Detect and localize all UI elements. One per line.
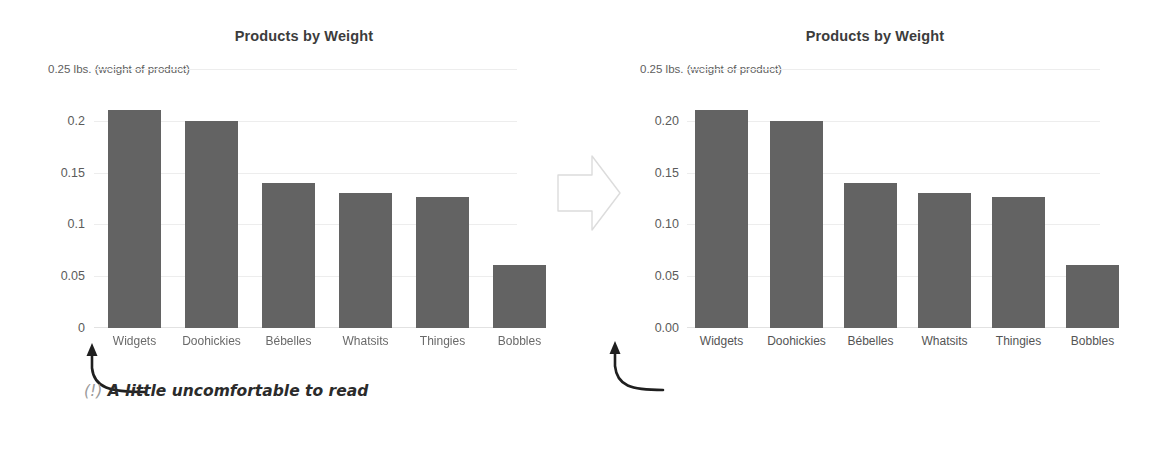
bar: [493, 265, 546, 328]
x-tick-label: Doohickies: [756, 334, 837, 348]
bar: [992, 197, 1045, 328]
bar: [185, 121, 238, 328]
chart-panel-after: Products by Weight 0.25 lbs. (weight of …: [577, 0, 1153, 454]
y-tick-label: 0.2: [30, 114, 85, 128]
plot-area: WidgetsDoohickiesBébellesWhatsitsThingie…: [687, 69, 1100, 328]
y-tick-label: 0.1: [30, 217, 85, 231]
page-title: Products by Weight: [587, 28, 1153, 44]
y-tick-label: 0.05: [30, 269, 85, 283]
x-tick-label: Whatsits: [904, 334, 985, 348]
bar: [844, 183, 897, 328]
y-tick-label: 0: [30, 321, 85, 335]
x-tick-label: Widgets: [681, 334, 762, 348]
bar: [339, 193, 392, 328]
x-tick-label: Doohickies: [171, 334, 252, 348]
bar: [416, 197, 469, 328]
x-tick-label: Widgets: [94, 334, 175, 348]
annotation-marker: (!): [84, 382, 102, 400]
x-tick-label: Bébelles: [830, 334, 911, 348]
bar: [108, 110, 161, 328]
bar: [918, 193, 971, 328]
annotation-before: (!) A little uncomfortable to read: [84, 381, 368, 402]
bar: [262, 183, 315, 328]
x-tick-label: Thingies: [402, 334, 483, 348]
bar: [770, 121, 823, 328]
bar: [695, 110, 748, 328]
page-title: Products by Weight: [16, 28, 592, 44]
x-axis-labels: WidgetsDoohickiesBébellesWhatsitsThingie…: [94, 328, 517, 350]
bar-series: [94, 69, 517, 328]
x-tick-label: Whatsits: [325, 334, 406, 348]
y-tick-label: 0.10: [617, 217, 679, 231]
y-tick-label: 0.15: [30, 166, 85, 180]
x-tick-label: Thingies: [978, 334, 1059, 348]
bar: [1066, 265, 1119, 328]
y-tick-label: 0.00: [617, 321, 679, 335]
x-tick-label: Bobbles: [479, 334, 560, 348]
x-axis-labels: WidgetsDoohickiesBébellesWhatsitsThingie…: [687, 328, 1100, 350]
plot-area: WidgetsDoohickiesBébellesWhatsitsThingie…: [94, 69, 517, 328]
x-tick-label: Bobbles: [1052, 334, 1133, 348]
x-tick-label: Bébelles: [248, 334, 329, 348]
y-tick-label: 0.05: [617, 269, 679, 283]
chart-panel-before: Products by Weight 0.25 lbs. (weight of …: [0, 0, 576, 454]
y-tick-label: 0.15: [617, 166, 679, 180]
y-tick-label: 0.20: [617, 114, 679, 128]
annotation-line-1: A little uncomfortable to read: [108, 382, 369, 400]
bar-series: [687, 69, 1100, 328]
